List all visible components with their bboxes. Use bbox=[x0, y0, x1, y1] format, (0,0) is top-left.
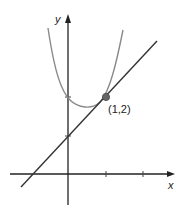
tangent-line bbox=[21, 41, 157, 187]
parabola-curve bbox=[48, 28, 123, 107]
y-axis-arrow-icon bbox=[65, 14, 71, 23]
tangent-diagram: x y (1,2) bbox=[0, 0, 183, 217]
x-axis-label: x bbox=[167, 179, 174, 191]
y-axis-label: y bbox=[54, 13, 62, 25]
tangent-point-label: (1,2) bbox=[108, 103, 131, 115]
x-axis-arrow-icon bbox=[167, 171, 175, 177]
y-axis: y bbox=[54, 13, 71, 205]
tangent-point bbox=[102, 93, 109, 100]
x-axis: x bbox=[10, 171, 175, 191]
